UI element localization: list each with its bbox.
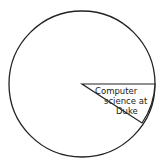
slice-label-line1: Computer — [95, 86, 138, 96]
slice-label-line3: Duke — [116, 106, 138, 116]
pie-chart: Computer science at Duke — [0, 0, 165, 166]
slice-label-line2: science at — [104, 96, 148, 106]
